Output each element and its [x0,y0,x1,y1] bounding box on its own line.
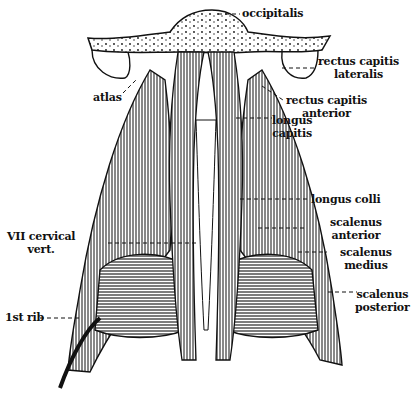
label-occipitalis: occipitalis [242,7,303,20]
label-first-rib: 1st rib [5,311,44,324]
occipital-bone [88,10,330,78]
longus-muscles [169,52,242,360]
label-scalenus-medius: scalenus medius [340,246,392,272]
label-vii-cervical-vert: VII cervical vert. [7,230,75,256]
label-scalenus-anterior: scalenus anterior [330,216,382,242]
label-rectus-capitis-lateralis: rectus capitis lateralis [318,55,399,81]
label-longus-capitis: longus capitis [272,114,312,140]
label-atlas: atlas [93,91,122,104]
label-scalenus-posterior: scalenus posterior [355,288,410,314]
label-longus-colli: longus colli [311,193,380,206]
